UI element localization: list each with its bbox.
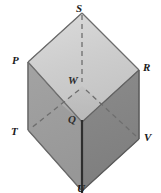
vertex-label-v: V — [144, 132, 151, 143]
vertex-label-r: R — [143, 62, 150, 73]
vertex-label-q: Q — [68, 114, 76, 125]
vertex-label-s: S — [76, 3, 82, 14]
cube-diagram-figure: S P R W Q T V U — [0, 0, 161, 193]
vertex-label-w: W — [68, 75, 78, 86]
vertex-label-u: U — [77, 183, 85, 193]
vertex-label-t: T — [11, 126, 18, 137]
cube-svg-canvas — [0, 0, 161, 193]
vertex-label-p: P — [12, 55, 19, 66]
